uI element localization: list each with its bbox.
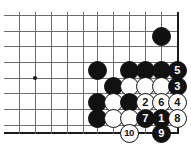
hoshi-left	[33, 76, 37, 80]
move-number-6: 6	[158, 96, 164, 107]
move-number-9: 9	[158, 127, 164, 138]
grid-line-vertical-0	[19, 12, 20, 134]
move-number-10: 10	[124, 128, 134, 138]
grid-line-horizontal-2	[4, 46, 179, 47]
grid-line-vertical-3	[67, 12, 68, 134]
move-number-1: 1	[158, 112, 164, 123]
move-number-8: 8	[174, 112, 180, 123]
black-stone-move-9: 9	[152, 124, 171, 143]
go-board-diagram: 53264718109	[0, 0, 191, 150]
grid-line-horizontal-0	[4, 15, 179, 16]
move-number-4: 4	[174, 96, 180, 107]
white-stone-move-10: 10	[120, 124, 139, 143]
move-number-7: 7	[142, 112, 148, 123]
move-number-5: 5	[174, 64, 180, 75]
grid-line-vertical-1	[35, 12, 36, 134]
white-stone-move-8: 8	[168, 109, 187, 128]
grid-line-vertical-4	[83, 12, 84, 134]
black-stone-left-wall	[88, 61, 107, 80]
move-number-3: 3	[174, 80, 180, 91]
move-number-2: 2	[142, 96, 148, 107]
black-stone-upper-right	[152, 27, 171, 46]
grid-line-vertical-2	[51, 12, 52, 134]
